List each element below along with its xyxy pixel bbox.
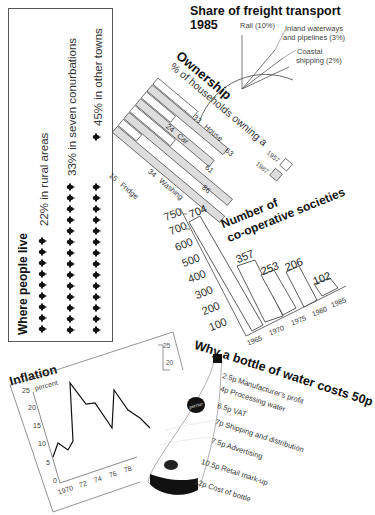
bottle-cap-icon [213, 354, 222, 363]
